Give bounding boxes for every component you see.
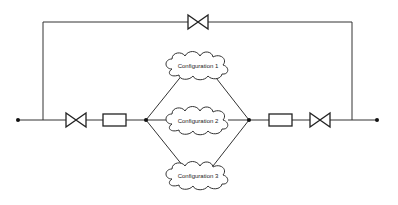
configuration-3-label: Configuration 3 (163, 172, 233, 180)
left-valve-icon (66, 113, 86, 127)
flow-diagram: Configuration 1 Configuration 2 Configur… (0, 0, 398, 205)
right-valve-icon (310, 113, 330, 127)
left-terminal-dot (16, 118, 20, 122)
bypass-valve-icon (188, 15, 208, 29)
configuration-1-label: Configuration 1 (163, 62, 233, 70)
left-junction-dot (144, 118, 148, 122)
right-block-icon (269, 114, 292, 126)
configuration-2-label: Configuration 2 (163, 117, 233, 125)
right-terminal-dot (375, 118, 379, 122)
left-block-icon (103, 114, 126, 126)
right-junction-dot (247, 118, 251, 122)
